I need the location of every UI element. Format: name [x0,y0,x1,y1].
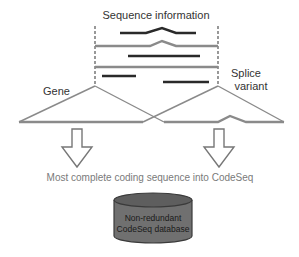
splice-left-edge [143,86,218,122]
read-2-full-spliced [95,41,218,46]
gene-label: Gene [43,85,70,97]
database-label-line2: CodeSeq database [117,224,190,234]
splice-variant-label-line2: variant [234,80,267,92]
database-top [114,193,192,207]
right-down-arrow-icon [204,129,234,167]
sequence-information-title: Sequence information [102,9,209,21]
splice-variant-label-line1: Splice [231,67,261,79]
caption-text: Most complete coding sequence into CodeS… [47,172,254,183]
splice-base [164,116,284,122]
read-1-spliced [120,28,196,33]
codeseq-diagram: Sequence information Gene Splice variant… [0,0,299,257]
left-down-arrow-icon [62,129,92,167]
database-label-line1: Non-redundant [125,213,182,223]
